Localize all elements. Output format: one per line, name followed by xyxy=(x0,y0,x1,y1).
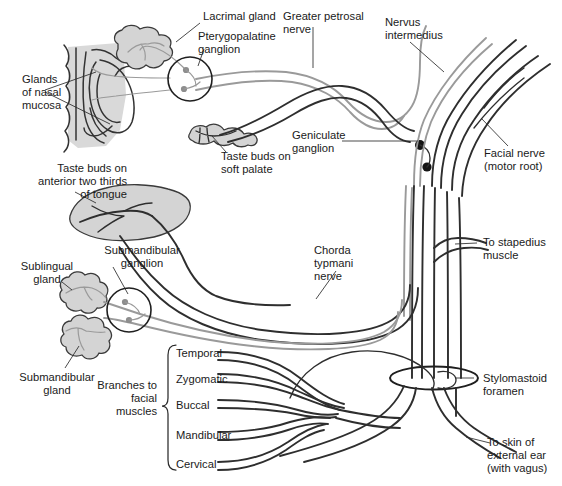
branch-label-zygomatic: Zygomatic xyxy=(176,373,228,385)
label-submandibular-ganglion-line1: Submandibular xyxy=(104,244,180,256)
submandibular-ganglion xyxy=(107,288,151,332)
label-geniculate-line2: ganglion xyxy=(292,142,334,154)
label-geniculate-line1: Geniculate xyxy=(292,129,346,141)
label-chorda-line3: nerve xyxy=(314,270,342,282)
label-facial-nerve-line1: Facial nerve xyxy=(484,147,545,159)
submandibular-gland xyxy=(61,315,112,359)
label-glands-of-nasal-mucosa: Glands of nasal mucosa xyxy=(22,73,62,111)
label-submandibular-gland-line2: gland xyxy=(43,384,70,396)
label-submandibular-gland: Submandibular gland xyxy=(19,371,95,396)
label-chorda-tympani-nerve: Chorda typmani nerve xyxy=(314,244,353,282)
label-chorda-line2: typmani xyxy=(314,257,353,269)
label-sublingual-line1: Sublingual xyxy=(21,260,73,272)
label-pterygopalatine-line1: Pterygopalatine xyxy=(198,30,276,42)
label-branches-to-facial-muscles: Branches to facial muscles xyxy=(97,379,157,417)
label-taste-tongue-line2: anterior two thirds xyxy=(38,175,127,187)
label-sublingual-line2: gland xyxy=(33,273,60,285)
label-lacrimal-gland-line1: Lacrimal gland xyxy=(203,10,276,22)
branch-label-mandibular: Mandibular xyxy=(176,429,232,441)
label-glands-nasal-line1: Glands xyxy=(22,73,58,85)
label-nervus-intermedius: Nervus intermedius xyxy=(385,16,443,41)
label-skin-ear-line2: external ear xyxy=(487,449,546,461)
label-submandibular-ganglion: Submandibular ganglion xyxy=(104,244,180,269)
label-pterygopalatine-line2: ganglion xyxy=(198,43,240,55)
facial-nerve-trunk xyxy=(404,38,550,378)
facial-nerve-diagram: Lacrimal gland Pterygopalatine ganglion … xyxy=(0,0,562,486)
label-nervus-intermedius-line2: intermedius xyxy=(385,29,443,41)
label-stapedius-line1: To stapedius xyxy=(483,236,546,248)
label-glands-nasal-line2: of nasal xyxy=(22,86,61,98)
label-branches-line3: muscles xyxy=(116,405,157,417)
label-taste-soft-palate-line1: Taste buds on xyxy=(221,150,291,162)
label-pterygopalatine-ganglion: Pterygopalatine ganglion xyxy=(198,30,276,55)
branch-label-buccal: Buccal xyxy=(176,399,210,411)
label-greater-petrosal-nerve: Greater petrosal nerve xyxy=(283,10,364,35)
label-geniculate-ganglion: Geniculate ganglion xyxy=(292,129,346,154)
label-taste-buds-soft-palate: Taste buds on soft palate xyxy=(221,150,291,175)
sublingual-gland xyxy=(60,272,108,313)
branches-brace xyxy=(162,345,176,470)
label-submandibular-gland-line1: Submandibular xyxy=(19,371,95,383)
label-chorda-line1: Chorda xyxy=(314,244,351,256)
label-lacrimal-gland: Lacrimal gland xyxy=(203,10,276,22)
label-taste-soft-palate-line2: soft palate xyxy=(221,163,273,175)
branch-label-cervical: Cervical xyxy=(176,458,216,470)
label-stylomastoid-line2: foramen xyxy=(483,385,524,397)
label-stylomastoid-foramen: Stylomastoid foramen xyxy=(483,372,547,397)
label-stapedius-line2: muscle xyxy=(483,249,518,261)
label-skin-ear-line3: (with vagus) xyxy=(487,462,548,474)
label-skin-ear-line1: To skin of xyxy=(487,436,535,448)
label-branches-line1: Branches to xyxy=(97,379,157,391)
label-greater-petrosal-line2: nerve xyxy=(283,23,311,35)
label-greater-petrosal-line1: Greater petrosal xyxy=(283,10,364,22)
label-to-stapedius-muscle: To stapedius muscle xyxy=(483,236,546,261)
label-taste-tongue-line3: of tongue xyxy=(80,188,127,200)
label-nervus-intermedius-line1: Nervus xyxy=(385,16,421,28)
label-facial-nerve-motor-root: Facial nerve (motor root) xyxy=(484,147,545,172)
label-branches-line2: facial xyxy=(131,392,157,404)
label-glands-nasal-line3: mucosa xyxy=(22,99,62,111)
label-taste-tongue-line1: Taste buds on xyxy=(57,162,127,174)
label-submandibular-ganglion-line2: ganglion xyxy=(121,257,163,269)
label-taste-buds-tongue: Taste buds on anterior two thirds of ton… xyxy=(38,162,127,200)
label-stylomastoid-line1: Stylomastoid xyxy=(483,372,547,384)
label-to-skin-external-ear: To skin of external ear (with vagus) xyxy=(487,436,548,474)
pterygopalatine-ganglion xyxy=(168,57,212,101)
label-facial-nerve-line2: (motor root) xyxy=(484,160,543,172)
branch-label-temporal: Temporal xyxy=(176,347,222,359)
